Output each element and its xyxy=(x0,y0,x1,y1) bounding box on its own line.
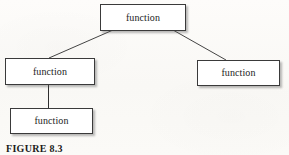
figure-call-hierarchy-diagram: function function function function FIGU… xyxy=(0,0,289,155)
node-right-function[interactable]: function xyxy=(197,60,280,86)
node-root-function[interactable]: function xyxy=(100,4,186,31)
node-root-label: function xyxy=(126,13,160,23)
node-left-label: function xyxy=(33,67,67,77)
node-left-function[interactable]: function xyxy=(5,58,95,85)
node-right-label: function xyxy=(221,68,255,78)
connector-root-to-left xyxy=(49,30,113,58)
figure-caption: FIGURE 8.3 xyxy=(6,143,63,154)
node-left-child-function[interactable]: function xyxy=(10,108,93,134)
connector-root-to-right xyxy=(173,30,226,60)
node-left-child-label: function xyxy=(34,116,68,126)
